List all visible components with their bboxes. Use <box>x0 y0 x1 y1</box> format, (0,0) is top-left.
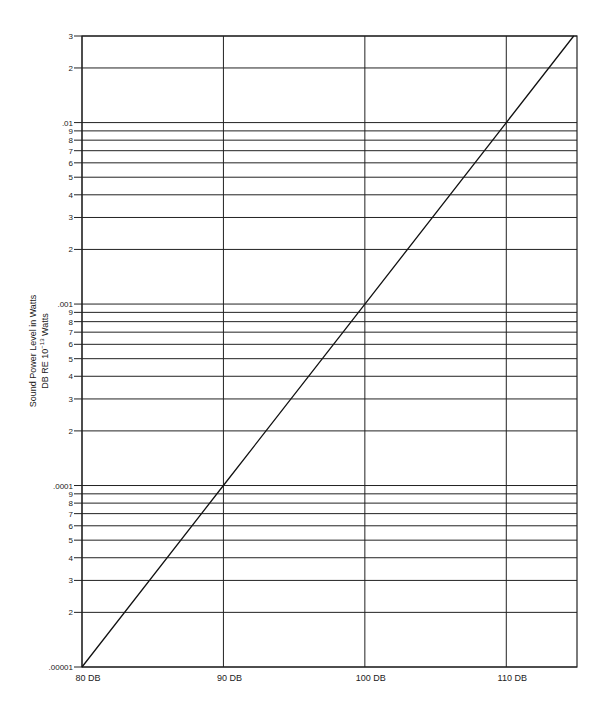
x-tick-label: 100 DB <box>356 673 386 683</box>
y-tick-label: 9 <box>69 127 74 136</box>
y-tick-label: 4 <box>69 554 74 563</box>
y-tick-label: 3 <box>69 395 74 404</box>
conversion-chart: 32.0198765432.00198765432.000198765432.0… <box>0 0 600 704</box>
y-tick-label: 6 <box>69 522 74 531</box>
y-axis-title-tail: Watts <box>40 313 50 339</box>
y-tick-label: 5 <box>69 355 74 364</box>
y-tick-label: 2 <box>69 245 74 254</box>
y-tick-label: 8 <box>69 499 74 508</box>
y-tick-label: 2 <box>69 64 74 73</box>
x-tick-label: 110 DB <box>498 673 527 683</box>
y-tick-label: 6 <box>69 340 74 349</box>
y-tick-label: 7 <box>69 328 74 337</box>
y-tick-label: 2 <box>69 608 74 617</box>
y-gridlines <box>74 36 577 667</box>
y-axis-title-line2: DB RE 10−13 Watts <box>39 313 50 389</box>
y-tick-label: 8 <box>69 136 74 145</box>
x-tick-label: 90 DB <box>217 673 242 683</box>
y-tick-label: 4 <box>69 372 74 381</box>
y-tick-label: 7 <box>69 510 74 519</box>
y-tick-label: .00001 <box>49 663 74 672</box>
y-tick-labels: 32.0198765432.00198765432.000198765432.0… <box>49 32 74 672</box>
y-tick-label: 3 <box>69 576 74 585</box>
y-tick-label: 9 <box>69 308 74 317</box>
y-axis-title: Sound Power Level in Watts DB RE 10−13 W… <box>28 294 50 407</box>
y-tick-label: 9 <box>69 490 74 499</box>
x-tick-label: 80 DB <box>75 673 100 683</box>
y-tick-label: 7 <box>69 147 74 156</box>
y-tick-label: 3 <box>69 32 74 41</box>
y-tick-label: 2 <box>69 427 74 436</box>
y-tick-label: 4 <box>69 191 74 200</box>
y-axis-title-base: DB RE 10 <box>40 349 50 389</box>
y-tick-label: 5 <box>69 173 74 182</box>
y-tick-label: 8 <box>69 318 74 327</box>
y-tick-label: 3 <box>69 213 74 222</box>
y-tick-label: 6 <box>69 159 74 168</box>
y-tick-label: 5 <box>69 536 74 545</box>
y-axis-title-line1: Sound Power Level in Watts <box>28 294 38 407</box>
x-tick-labels: 80 DB90 DB100 DB110 DB <box>75 673 526 683</box>
